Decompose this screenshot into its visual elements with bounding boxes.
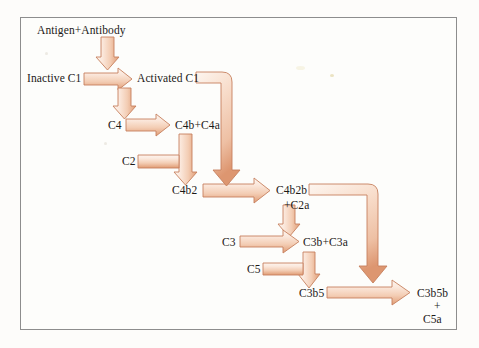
node-plus-sign: + xyxy=(434,300,441,313)
node-c5: C5 xyxy=(247,263,261,275)
node-inactive-c1: Inactive C1 xyxy=(27,72,81,84)
node-antigen-antibody: Antigen+Antibody xyxy=(37,24,126,36)
node-c4b-c4a: C4b+C4a xyxy=(175,119,220,131)
figure-frame xyxy=(20,17,457,330)
node-c3: C3 xyxy=(222,236,236,248)
node-c4b2b: C4b2b xyxy=(276,184,307,196)
node-c3b-c3a: C3b+C3a xyxy=(303,236,348,248)
node-c3b5: C3b5 xyxy=(299,287,324,299)
node-activated-c1: Activated C1 xyxy=(137,72,199,84)
node-plus-c2a: +C2a xyxy=(284,199,309,211)
paper-speck xyxy=(45,52,48,55)
complement-pathway-figure: Antigen+Antibody Inactive C1 Activated C… xyxy=(0,0,479,348)
paper-speck xyxy=(104,142,107,145)
node-c4b2: C4b2 xyxy=(172,184,197,196)
node-c4: C4 xyxy=(108,119,122,131)
paper-speck xyxy=(296,66,305,70)
node-c5a: C5a xyxy=(423,313,442,326)
node-c3b5b: C3b5b xyxy=(417,287,448,300)
node-c2: C2 xyxy=(122,155,136,167)
paper-speck xyxy=(330,74,334,77)
